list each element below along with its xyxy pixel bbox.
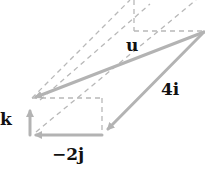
vector-diagram: u 4i k −2j bbox=[0, 0, 205, 177]
label-k: k bbox=[0, 111, 12, 128]
label-u: u bbox=[126, 37, 138, 54]
four-i-vector bbox=[108, 32, 204, 129]
label-4i: 4i bbox=[161, 81, 179, 98]
label-minus-2j: −2j bbox=[52, 146, 84, 163]
